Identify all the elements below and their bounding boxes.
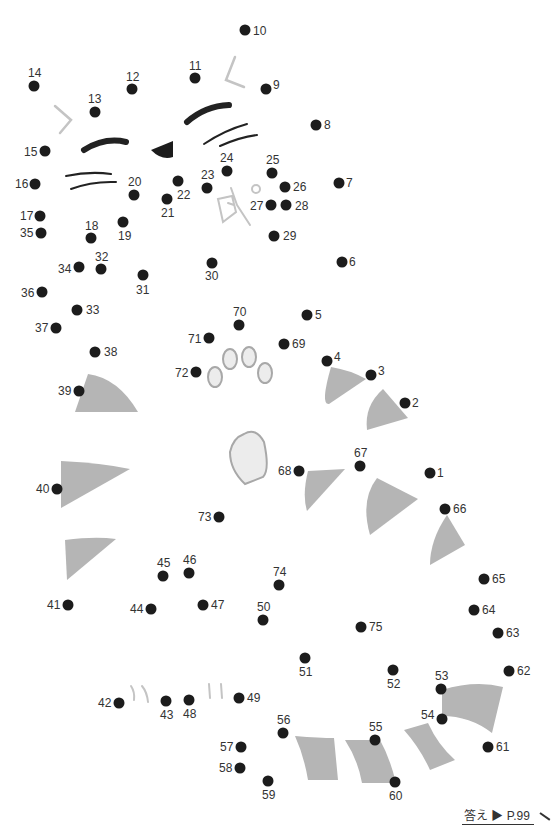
dot-54[interactable] (437, 714, 448, 725)
dot-71[interactable] (204, 333, 215, 344)
dot-13[interactable] (90, 107, 101, 118)
dot-44[interactable] (146, 604, 157, 615)
dot-56[interactable] (278, 728, 289, 739)
dot-label: 38 (104, 346, 117, 358)
dot-33[interactable] (72, 305, 83, 316)
dot-label: 30 (205, 270, 218, 282)
dot-7[interactable] (334, 178, 345, 189)
dot-58[interactable] (235, 763, 246, 774)
dot-11[interactable] (190, 73, 201, 84)
dot-69[interactable] (279, 339, 290, 350)
dot-66[interactable] (440, 504, 451, 515)
dot-38[interactable] (90, 347, 101, 358)
dot-label: 44 (130, 603, 143, 615)
dot-41[interactable] (63, 600, 74, 611)
dot-label: 11 (189, 60, 201, 72)
dot-10[interactable] (240, 25, 251, 36)
dot-14[interactable] (29, 81, 40, 92)
dot-43[interactable] (161, 696, 172, 707)
dot-48[interactable] (184, 695, 195, 706)
dot-6[interactable] (337, 257, 348, 268)
dot-label: 40 (36, 483, 49, 495)
dot-18[interactable] (86, 233, 97, 244)
dot-59[interactable] (263, 776, 274, 787)
dot-19[interactable] (118, 217, 129, 228)
dot-label: 60 (389, 790, 402, 802)
dot-49[interactable] (234, 693, 245, 704)
dot-32[interactable] (96, 264, 107, 275)
dot-26[interactable] (280, 182, 291, 193)
dot-17[interactable] (35, 211, 46, 222)
dot-29[interactable] (269, 231, 280, 242)
dot-24[interactable] (222, 166, 233, 177)
dot-9[interactable] (261, 84, 272, 95)
dot-67[interactable] (355, 461, 366, 472)
dot-70[interactable] (234, 320, 245, 331)
dot-55[interactable] (370, 735, 381, 746)
dot-label: 59 (262, 789, 275, 801)
dot-28[interactable] (281, 200, 292, 211)
dot-22[interactable] (173, 176, 184, 187)
dot-62[interactable] (504, 666, 515, 677)
dot-label: 53 (435, 670, 448, 682)
dot-73[interactable] (214, 512, 225, 523)
dot-16[interactable] (30, 179, 41, 190)
dot-27[interactable] (266, 200, 277, 211)
dot-15[interactable] (40, 146, 51, 157)
dot-45[interactable] (158, 571, 169, 582)
dot-60[interactable] (390, 777, 401, 788)
dot-39[interactable] (74, 386, 85, 397)
dot-47[interactable] (198, 600, 209, 611)
dot-37[interactable] (51, 323, 62, 334)
dot-61[interactable] (483, 742, 494, 753)
dot-46[interactable] (184, 568, 195, 579)
dot-64[interactable] (469, 605, 480, 616)
dot-8[interactable] (311, 120, 322, 131)
dot-5[interactable] (302, 310, 313, 321)
dot-31[interactable] (138, 270, 149, 281)
dot-1[interactable] (425, 468, 436, 479)
dot-34[interactable] (74, 262, 85, 273)
dot-57[interactable] (236, 742, 247, 753)
dot-68[interactable] (294, 466, 305, 477)
dot-label: 9 (273, 79, 280, 91)
dot-4[interactable] (322, 356, 333, 367)
dot-label: 63 (506, 627, 519, 639)
nostril (252, 185, 260, 193)
dot-21[interactable] (162, 194, 173, 205)
dot-51[interactable] (300, 653, 311, 664)
dot-74[interactable] (274, 580, 285, 591)
dot-36[interactable] (37, 287, 48, 298)
dot-label: 66 (453, 503, 466, 515)
dot-30[interactable] (207, 258, 218, 269)
dot-12[interactable] (127, 84, 138, 95)
dot-label: 46 (183, 554, 196, 566)
dot-label: 73 (198, 511, 211, 523)
dot-label: 10 (253, 25, 266, 37)
dot-25[interactable] (267, 168, 278, 179)
dot-label: 55 (369, 721, 382, 733)
dot-50[interactable] (258, 615, 269, 626)
dot-label: 57 (220, 741, 233, 753)
dot-40[interactable] (52, 484, 63, 495)
dot-42[interactable] (114, 698, 125, 709)
dot-3[interactable] (366, 370, 377, 381)
dot-label: 75 (369, 621, 382, 633)
dot-63[interactable] (493, 628, 504, 639)
dot-label: 32 (95, 251, 108, 263)
right-ear-mark (226, 57, 244, 87)
dot-23[interactable] (202, 183, 213, 194)
dot-75[interactable] (356, 622, 367, 633)
dot-52[interactable] (388, 665, 399, 676)
dot-label: 74 (273, 566, 286, 578)
dot-35[interactable] (36, 228, 47, 239)
dot-65[interactable] (479, 574, 490, 585)
dot-72[interactable] (191, 367, 202, 378)
dot-53[interactable] (436, 684, 447, 695)
dot-2[interactable] (400, 398, 411, 409)
dot-label: 72 (175, 367, 188, 379)
dot-label: 4 (334, 351, 341, 363)
dot-20[interactable] (129, 190, 140, 201)
dot-label: 29 (283, 230, 296, 242)
dot-label: 33 (86, 304, 99, 316)
